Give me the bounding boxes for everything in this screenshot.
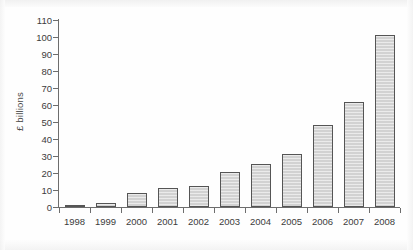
y-axis-tick: [53, 105, 59, 106]
scan-artifact-bottom: [0, 240, 413, 250]
y-axis-tick-label: 60: [6, 100, 52, 111]
bar-chart-figure: £ billions 0102030405060708090100110 199…: [0, 0, 413, 250]
y-axis-tick: [53, 122, 59, 123]
bar-2003: [220, 172, 240, 207]
x-axis-tick: [307, 208, 308, 213]
y-axis-tick-label: 110: [6, 15, 52, 26]
x-axis-tick: [276, 208, 277, 213]
y-axis-tick-label: 40: [6, 134, 52, 145]
y-axis-tick-label: 100: [6, 32, 52, 43]
y-axis-tick-label: 0: [6, 202, 52, 213]
y-axis-tick: [53, 88, 59, 89]
y-axis-ticks: 0102030405060708090100110: [0, 0, 52, 250]
x-axis-tick: [183, 208, 184, 213]
x-axis-tick: [369, 208, 370, 213]
bar-1999: [96, 203, 116, 207]
bar-2000: [127, 193, 147, 207]
y-axis-tick: [53, 190, 59, 191]
plot-area: [59, 20, 400, 207]
y-axis-tick: [53, 156, 59, 157]
y-axis-tick: [53, 37, 59, 38]
y-axis-tick-label: 10: [6, 185, 52, 196]
x-axis-tick-label-2008: 2008: [365, 216, 405, 227]
y-axis-tick: [53, 54, 59, 55]
scan-artifact-top: [0, 0, 413, 7]
x-axis-tick: [400, 208, 401, 213]
bar-2005: [282, 154, 302, 207]
x-axis-tick: [214, 208, 215, 213]
y-axis-tick-label: 70: [6, 83, 52, 94]
bar-2008: [375, 35, 395, 207]
bar-1998: [65, 205, 85, 207]
x-axis-tick: [338, 208, 339, 213]
y-axis-tick: [53, 20, 59, 21]
y-axis-tick-label: 20: [6, 168, 52, 179]
x-axis-tick: [245, 208, 246, 213]
bar-2006: [313, 125, 333, 207]
y-axis-tick-label: 90: [6, 49, 52, 60]
scan-artifact-right: [407, 0, 413, 250]
x-axis-tick: [59, 208, 60, 213]
y-axis-tick: [53, 71, 59, 72]
y-axis-tick: [53, 139, 59, 140]
y-axis-tick-label: 80: [6, 66, 52, 77]
x-axis-line: [58, 207, 400, 208]
y-axis-tick: [53, 173, 59, 174]
x-axis-tick: [152, 208, 153, 213]
y-axis-tick-label: 30: [6, 151, 52, 162]
bar-2002: [189, 186, 209, 207]
x-axis-tick: [90, 208, 91, 213]
bar-2007: [344, 102, 364, 207]
x-axis-tick: [121, 208, 122, 213]
bar-2001: [158, 188, 178, 207]
y-axis-tick-label: 50: [6, 117, 52, 128]
bar-2004: [251, 164, 271, 207]
